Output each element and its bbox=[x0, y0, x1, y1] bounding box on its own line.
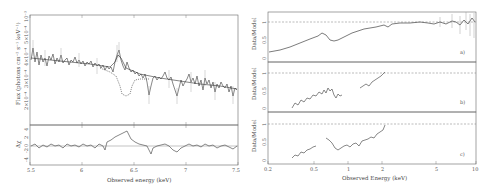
svg-text:0.5: 0.5 bbox=[261, 138, 267, 146]
left-model-dotted bbox=[100, 68, 150, 96]
right-panel-b-data-2 bbox=[360, 72, 385, 88]
svg-text:0: 0 bbox=[261, 57, 267, 60]
svg-text:0.5: 0.5 bbox=[261, 87, 267, 95]
right-xtick-3: 2 bbox=[381, 166, 384, 172]
svg-text:1: 1 bbox=[261, 123, 267, 126]
right-xlabel: Observed Energy (keV) bbox=[342, 175, 407, 182]
right-figure: Data/Model Data/Model Data/Model 0 0.5 1… bbox=[251, 12, 478, 182]
left-xtick-4: 7.5 bbox=[232, 167, 240, 173]
right-yticks: 0 0.5 1 0 0.5 1 0 0.5 1 bbox=[261, 21, 267, 162]
right-panel-a-frame bbox=[268, 12, 476, 62]
left-xtick-0: 5.5 bbox=[27, 167, 35, 173]
left-ylabel-bottom: Δχ bbox=[15, 140, 22, 148]
svg-text:4×10⁻⁴: 4×10⁻⁴ bbox=[23, 48, 29, 66]
svg-text:2: 2 bbox=[23, 136, 29, 139]
left-yticks-bottom: -4 -2 0 2 4 bbox=[23, 128, 29, 162]
right-panel-label-c: c) bbox=[460, 151, 465, 157]
left-xtick-3: 7 bbox=[184, 167, 187, 173]
right-panel-label-b: b) bbox=[460, 99, 465, 105]
svg-text:1: 1 bbox=[261, 72, 267, 75]
right-panel-c-data bbox=[292, 146, 316, 158]
right-x-ticks bbox=[268, 161, 476, 164]
svg-text:10⁻³: 10⁻³ bbox=[23, 11, 29, 22]
left-x-ticks bbox=[30, 15, 238, 165]
right-panel-c-data-2 bbox=[326, 125, 385, 150]
svg-text:0: 0 bbox=[23, 144, 29, 147]
right-ylabel-b: Data/Model bbox=[251, 67, 257, 100]
left-xlabel: Observed energy (keV) bbox=[107, 177, 171, 184]
svg-text:0: 0 bbox=[261, 159, 267, 162]
right-panel-a-errorbars bbox=[440, 12, 474, 38]
left-figure: 5.5 6 6.5 7 7.5 Observed energy (keV) Fl… bbox=[15, 11, 240, 184]
svg-text:5×10⁻⁴: 5×10⁻⁴ bbox=[23, 26, 29, 44]
left-errorbars bbox=[33, 40, 233, 104]
left-residual-data bbox=[31, 131, 237, 154]
left-spectrum-frame bbox=[30, 15, 238, 125]
figure-canvas: 5.5 6 6.5 7 7.5 Observed energy (keV) Fl… bbox=[0, 0, 488, 188]
right-xtick-0: 0.2 bbox=[264, 166, 272, 172]
right-panel-c-frame bbox=[268, 112, 476, 164]
right-xtick-4: 5 bbox=[435, 166, 438, 172]
left-ylabel-top: Flux (photons cm⁻² s⁻¹ keV⁻¹) bbox=[15, 22, 22, 105]
right-xtick-1: 0.5 bbox=[310, 166, 318, 172]
right-panel-label-a: a) bbox=[460, 49, 465, 55]
right-panel-b-frame bbox=[268, 62, 476, 112]
svg-text:0: 0 bbox=[261, 107, 267, 110]
svg-text:-4: -4 bbox=[23, 157, 29, 162]
right-ylabel-a: Data/Model bbox=[251, 17, 257, 50]
left-yticks-top: 2×10⁻⁴ 3×10⁻⁴ 4×10⁻⁴ 5×10⁻⁴ 10⁻³ bbox=[23, 11, 29, 110]
left-xtick-1: 6 bbox=[80, 167, 83, 173]
svg-text:-2: -2 bbox=[23, 148, 29, 153]
left-xtick-2: 6.5 bbox=[130, 167, 138, 173]
right-panel-a-data bbox=[269, 18, 475, 52]
svg-text:3×10⁻⁴: 3×10⁻⁴ bbox=[23, 70, 29, 88]
left-spectrum-data bbox=[31, 48, 237, 96]
right-panel-b-data bbox=[292, 88, 342, 108]
svg-text:4: 4 bbox=[23, 128, 29, 131]
right-ylabel-c: Data/Model bbox=[251, 119, 257, 152]
svg-text:1: 1 bbox=[261, 21, 267, 24]
right-xtick-2: 1 bbox=[347, 166, 350, 172]
svg-text:2×10⁻⁴: 2×10⁻⁴ bbox=[23, 92, 29, 110]
right-xtick-5: 10 bbox=[472, 166, 478, 172]
svg-text:0.5: 0.5 bbox=[261, 36, 267, 44]
